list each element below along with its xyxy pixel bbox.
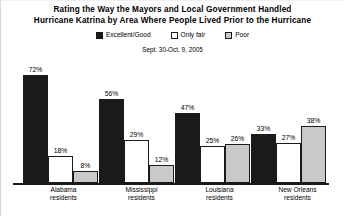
legend-swatch-icon: [171, 32, 178, 39]
bar[interactable]: [276, 143, 301, 184]
bar-value-label: 18%: [54, 147, 68, 155]
bar-value-label: 12%: [155, 156, 169, 164]
bar[interactable]: [149, 165, 174, 183]
page-title-second-line: Hurricane Katrina by Area Where People L…: [1, 16, 344, 27]
chart-legend: Excellent/Good Only fair Poor: [1, 31, 344, 39]
legend-item-only-fair: Only fair: [171, 31, 206, 39]
bar-item[interactable]: 47%: [175, 63, 200, 183]
bar-item[interactable]: 12%: [149, 63, 174, 183]
bar-item[interactable]: 29%: [124, 63, 149, 183]
legend-item-poor: Poor: [225, 31, 249, 39]
x-axis-tick-label-line: Alabama: [26, 186, 101, 194]
bar-item[interactable]: 25%: [200, 63, 225, 183]
x-axis-tick-label-line: Mississippi: [104, 186, 179, 194]
bar[interactable]: [124, 140, 149, 184]
bar[interactable]: [251, 134, 276, 184]
legend-label: Excellent/Good: [106, 31, 151, 39]
bar[interactable]: [301, 126, 326, 183]
bar-group: 47%25%26%: [175, 63, 251, 183]
bar[interactable]: [225, 144, 250, 183]
bar-value-label: 33%: [257, 125, 271, 133]
x-axis-tick-label-line: residents: [260, 194, 335, 202]
bar[interactable]: [200, 146, 225, 184]
bar-value-label: 56%: [105, 90, 119, 98]
bar-item[interactable]: 18%: [48, 63, 73, 183]
x-axis-tick-label-line: residents: [26, 194, 101, 202]
bar-value-label: 38%: [307, 117, 321, 125]
bar[interactable]: [48, 156, 73, 183]
bar-item[interactable]: 26%: [225, 63, 250, 183]
bar-group: 72%18%8%: [23, 63, 99, 183]
page-title: Rating the Way the Mayors and Local Gove…: [1, 5, 344, 16]
bar[interactable]: [23, 75, 48, 183]
x-axis-tick-label: New Orleansresidents: [257, 186, 335, 202]
legend-label: Only fair: [181, 31, 206, 39]
bar-item[interactable]: 72%: [23, 63, 48, 183]
bar-item[interactable]: 27%: [276, 63, 301, 183]
legend-item-excellent-good: Excellent/Good: [96, 31, 151, 39]
chart-figure: Rating the Way the Mayors and Local Gove…: [0, 0, 344, 216]
bar-item[interactable]: 33%: [251, 63, 276, 183]
x-axis-tick-label: Mississippiresidents: [101, 186, 179, 202]
bar-value-label: 25%: [206, 137, 220, 145]
bar-groups: 72%18%8%56%29%12%47%25%26%33%27%38%: [23, 63, 327, 183]
bar-group: 56%29%12%: [99, 63, 175, 183]
bar-value-label: 29%: [130, 131, 144, 139]
x-axis-line: [13, 183, 329, 185]
bar-item[interactable]: 38%: [301, 63, 326, 183]
bar[interactable]: [73, 171, 98, 183]
x-axis-tick-label-line: New Orleans: [260, 186, 335, 194]
bar-value-label: 26%: [231, 135, 245, 143]
bar-value-label: 47%: [181, 104, 195, 112]
bar-value-label: 72%: [29, 66, 43, 74]
bar[interactable]: [175, 113, 200, 184]
chart-title-block: Rating the Way the Mayors and Local Gove…: [1, 1, 344, 26]
x-axis-tick-label: Alabamaresidents: [23, 186, 101, 202]
legend-swatch-icon: [225, 32, 232, 39]
bar-item[interactable]: 8%: [73, 63, 98, 183]
bar-group: 33%27%38%: [251, 63, 327, 183]
legend-label: Poor: [235, 31, 249, 39]
x-axis-tick-label-line: residents: [104, 194, 179, 202]
legend-swatch-icon: [96, 32, 103, 39]
bar-item[interactable]: 56%: [99, 63, 124, 183]
x-axis-tick-label: Louisianaresidents: [179, 186, 257, 202]
x-axis-tick-label-line: residents: [182, 194, 257, 202]
bar-value-label: 8%: [81, 162, 91, 170]
chart-plot-area: 72%18%8%56%29%12%47%25%26%33%27%38%: [23, 63, 327, 183]
x-axis-tick-label-line: Louisiana: [182, 186, 257, 194]
bar[interactable]: [99, 99, 124, 183]
bar-value-label: 27%: [282, 134, 296, 142]
chart-subtitle: Sept. 30-Oct. 9, 2005: [1, 46, 344, 53]
x-axis-category-labels: AlabamaresidentsMississippiresidentsLoui…: [23, 186, 327, 202]
